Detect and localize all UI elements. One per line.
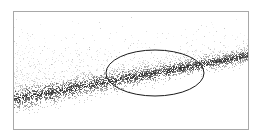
scatter-plot-canvas: [14, 12, 248, 129]
figure-root: Scatter plot showing a dense diagonal ba…: [0, 0, 262, 140]
plot-frame: [13, 11, 249, 130]
